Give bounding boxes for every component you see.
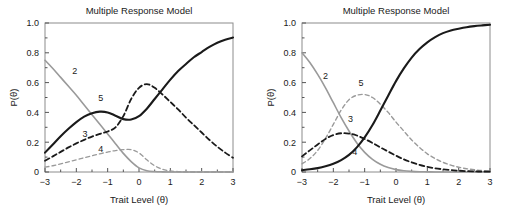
- x-tick-label: −3: [297, 177, 307, 187]
- x-tick-label: −2: [71, 177, 81, 187]
- x-tick-label: −2: [328, 177, 338, 187]
- curve-label-3: 3: [348, 114, 353, 124]
- curve-label-3: 3: [83, 129, 88, 139]
- curve-label-5: 5: [358, 78, 363, 88]
- curve-label-5: 5: [98, 93, 103, 103]
- x-tick-label: −1: [103, 177, 113, 187]
- y-tick-label: 0.4: [283, 108, 296, 118]
- x-tick-label: 1: [168, 177, 173, 187]
- x-tick-label: −1: [360, 177, 370, 187]
- chart-title: Multiple Response Model: [343, 5, 450, 16]
- y-tick-label: 0: [291, 167, 296, 177]
- y-tick-label: 0.2: [26, 138, 39, 148]
- curve-2: [302, 53, 490, 172]
- y-tick-label: 0.4: [26, 108, 39, 118]
- y-tick-label: 1.0: [26, 18, 39, 28]
- y-axis-label: P(θ): [265, 89, 276, 107]
- curve-label-2: 2: [323, 71, 328, 81]
- x-tick-label: 0: [393, 177, 398, 187]
- x-tick-label: 2: [456, 177, 461, 187]
- y-tick-label: 0.6: [26, 78, 39, 88]
- x-tick-label: 0: [136, 177, 141, 187]
- y-tick-label: 0.2: [283, 138, 296, 148]
- chart-title: Multiple Response Model: [86, 5, 193, 16]
- y-tick-label: 0.6: [283, 78, 296, 88]
- y-tick-label: 0.8: [26, 48, 39, 58]
- curve-label-4: 4: [352, 147, 357, 157]
- x-tick-label: 2: [199, 177, 204, 187]
- x-tick-label: 1: [425, 177, 430, 187]
- x-tick-label: 3: [487, 177, 492, 187]
- chart-svg-left: Multiple Response Model−3−2−1012300.20.4…: [0, 0, 257, 205]
- y-tick-label: 0: [34, 167, 39, 177]
- chart-panel-right: Multiple Response Model−3−2−1012300.20.4…: [257, 0, 514, 205]
- y-tick-label: 1.0: [283, 18, 296, 28]
- plot-frame: [45, 23, 233, 172]
- y-tick-label: 0.8: [283, 48, 296, 58]
- chart-svg-right: Multiple Response Model−3−2−1012300.20.4…: [257, 0, 514, 205]
- curve-label-4: 4: [98, 144, 103, 154]
- x-axis-label: Trait Level (θ): [367, 194, 425, 205]
- x-tick-label: −3: [40, 177, 50, 187]
- curve-5: [302, 94, 490, 171]
- x-axis-label: Trait Level (θ): [110, 194, 168, 205]
- x-tick-label: 3: [230, 177, 235, 187]
- chart-panel-left: Multiple Response Model−3−2−1012300.20.4…: [0, 0, 257, 205]
- curve-3: [45, 84, 233, 161]
- curve-label-2: 2: [72, 66, 77, 76]
- curve-5: [45, 38, 233, 153]
- figure-multiple-response-model: Multiple Response Model−3−2−1012300.20.4…: [0, 0, 514, 205]
- y-axis-label: P(θ): [8, 89, 19, 107]
